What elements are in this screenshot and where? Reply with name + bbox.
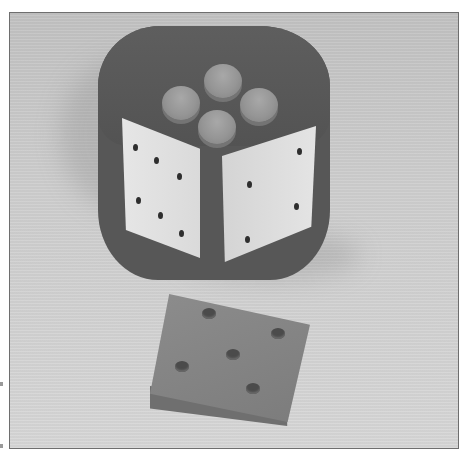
top-peg	[240, 88, 278, 122]
tile-pip	[202, 308, 216, 319]
pip	[133, 144, 138, 151]
margin-mark	[0, 382, 3, 386]
pip	[179, 230, 184, 237]
pip	[177, 173, 182, 180]
pip	[245, 236, 250, 243]
tile-pip	[226, 349, 240, 360]
pip	[136, 197, 141, 204]
pip	[247, 181, 252, 188]
tile-pip	[246, 383, 260, 394]
pip	[297, 148, 302, 155]
pip	[158, 212, 163, 219]
tile-pip	[271, 328, 285, 339]
top-peg	[198, 110, 236, 144]
margin-mark	[0, 444, 3, 448]
top-peg	[162, 86, 200, 120]
pip	[294, 203, 299, 210]
tile-pip	[175, 361, 189, 372]
pip	[154, 157, 159, 164]
top-peg	[204, 64, 242, 98]
